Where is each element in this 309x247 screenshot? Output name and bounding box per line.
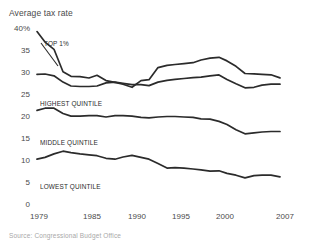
x-tick-1995: 1995 bbox=[172, 213, 190, 221]
x-axis: 1979 1985 1990 1995 2000 2007 bbox=[0, 0, 309, 247]
average-tax-rate-chart: Average tax rate 40% 35 30 25 20 15 10 5… bbox=[0, 0, 309, 247]
x-tick-2000: 2000 bbox=[216, 213, 234, 221]
x-tick-2007: 2007 bbox=[276, 213, 294, 221]
x-tick-1985: 1985 bbox=[83, 213, 101, 221]
source-note: Source: Congressional Budget Office bbox=[9, 232, 121, 239]
x-tick-1979: 1979 bbox=[30, 213, 48, 221]
x-tick-1990: 1990 bbox=[128, 213, 146, 221]
